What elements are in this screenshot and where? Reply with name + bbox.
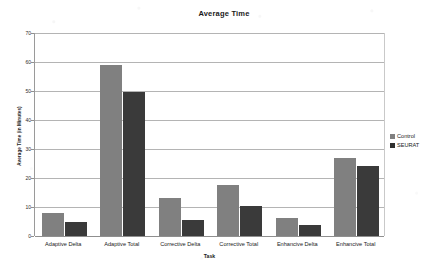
bar-group xyxy=(334,33,379,236)
bar-group xyxy=(42,33,87,236)
legend-swatch-icon xyxy=(390,134,395,139)
y-tick-label-40: 40 xyxy=(9,117,31,123)
gridline-70 xyxy=(35,33,384,34)
bar-seurat xyxy=(123,92,145,236)
gridline-50 xyxy=(35,91,384,92)
bar-control xyxy=(276,218,298,236)
legend-swatch-icon xyxy=(390,143,395,148)
bar-seurat xyxy=(65,222,87,236)
bar-control xyxy=(217,185,239,236)
bar-control xyxy=(42,213,64,236)
y-tick-label-10: 10 xyxy=(9,204,31,210)
gridline-40 xyxy=(35,120,384,121)
y-tick-label-30: 30 xyxy=(9,146,31,152)
bar-group xyxy=(100,33,145,236)
legend-label: Control xyxy=(397,133,415,139)
bar-group xyxy=(276,33,321,236)
bar-seurat xyxy=(357,166,379,236)
y-tick-label-60: 60 xyxy=(9,59,31,65)
gridline-60 xyxy=(35,62,384,63)
x-tick-label: Enhancive Total xyxy=(336,241,375,247)
gridline-0 xyxy=(35,236,384,237)
x-axis-title: Task xyxy=(34,253,385,259)
bar-group xyxy=(217,33,262,236)
x-tick-label: Enhancive Delta xyxy=(277,241,318,247)
gridline-10 xyxy=(35,207,384,208)
bar-group xyxy=(159,33,204,236)
y-tick-label-70: 70 xyxy=(9,30,31,36)
bar-control xyxy=(100,65,122,236)
x-tick-label: Adaptive Delta xyxy=(45,241,81,247)
legend-entry-control: Control xyxy=(390,133,419,139)
bar-control xyxy=(334,158,356,236)
x-tick-label: Corrective Total xyxy=(219,241,258,247)
x-tick-label: Corrective Delta xyxy=(160,241,200,247)
chart-title: Average Time xyxy=(0,9,448,18)
bar-control xyxy=(159,198,181,236)
bar-seurat xyxy=(240,206,262,236)
bar-chart-figure: Average Time Average Time (in Minutes) 0… xyxy=(0,0,448,272)
x-tick-label: Adaptive Total xyxy=(104,241,139,247)
y-tick-label-20: 20 xyxy=(9,175,31,181)
y-tick-mark-0 xyxy=(31,236,34,237)
y-tick-label-50: 50 xyxy=(9,88,31,94)
legend-entry-seurat: SEURAT xyxy=(390,142,419,148)
bar-seurat xyxy=(299,225,321,236)
plot-area xyxy=(34,33,385,236)
y-tick-label-0: 0 xyxy=(9,233,31,239)
legend-label: SEURAT xyxy=(397,142,419,148)
gridline-20 xyxy=(35,178,384,179)
bar-seurat xyxy=(182,220,204,236)
chart-legend: ControlSEURAT xyxy=(390,133,419,148)
gridline-30 xyxy=(35,149,384,150)
